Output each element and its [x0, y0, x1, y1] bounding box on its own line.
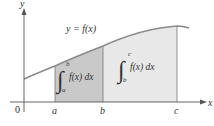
- tick-label-b: b: [100, 105, 105, 116]
- origin-label: 0: [15, 104, 20, 115]
- integral-ab-integrand: f(x) dx: [69, 72, 94, 83]
- x-axis-label: x: [207, 97, 213, 108]
- integral-bc-lower: b: [123, 76, 127, 84]
- tick-label-a: a: [52, 105, 57, 116]
- y-axis-label: y: [19, 0, 25, 9]
- x-axis-arrow-icon: [200, 100, 207, 105]
- integral-additivity-diagram: y x 0 a b c y = f(x) ∫ b a f(x) dx ∫ c b…: [0, 0, 214, 126]
- integral-ab-lower: a: [62, 86, 66, 94]
- curve-label: y = f(x): [65, 23, 97, 35]
- integral-bc-integrand: f(x) dx: [130, 62, 155, 73]
- y-axis-arrow-icon: [22, 8, 27, 15]
- integral-ab-upper: b: [66, 60, 70, 68]
- tick-label-c: c: [174, 105, 179, 116]
